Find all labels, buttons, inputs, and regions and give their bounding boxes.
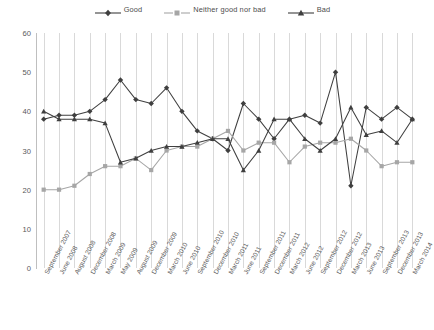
square-marker-icon xyxy=(164,4,190,14)
triangle-marker-icon xyxy=(256,148,261,153)
legend-item-neither[interactable]: Neither good nor bad xyxy=(164,4,265,14)
y-tick-label: 20 xyxy=(0,185,31,194)
square-marker-icon xyxy=(57,188,61,192)
diamond-marker-icon xyxy=(348,183,353,188)
series-bad xyxy=(41,105,415,172)
triangle-marker-icon xyxy=(288,4,314,14)
square-marker-icon xyxy=(410,160,414,164)
y-tick-label: 60 xyxy=(0,29,31,38)
triangle-marker-icon xyxy=(333,136,338,141)
square-marker-icon xyxy=(349,137,353,141)
diamond-marker-icon xyxy=(333,69,338,74)
square-marker-icon xyxy=(333,141,337,145)
triangle-marker-icon xyxy=(379,128,384,133)
diamond-marker-icon xyxy=(95,4,121,14)
square-marker-icon xyxy=(241,148,245,152)
square-marker-icon xyxy=(380,164,384,168)
square-marker-icon xyxy=(103,164,107,168)
legend-label-good: Good xyxy=(124,5,143,14)
chart-legend: Good Neither good nor bad Bad xyxy=(0,4,425,14)
square-marker-icon xyxy=(364,148,368,152)
diamond-marker-icon xyxy=(41,116,46,121)
square-marker-icon xyxy=(118,164,122,168)
y-tick-label: 10 xyxy=(0,224,31,233)
square-marker-icon xyxy=(88,172,92,176)
square-marker-icon xyxy=(395,160,399,164)
y-tick-label: 30 xyxy=(0,146,31,155)
y-tick-label: 0 xyxy=(0,264,31,273)
square-marker-icon xyxy=(272,141,276,145)
diamond-marker-icon xyxy=(317,120,322,125)
square-marker-icon xyxy=(303,144,307,148)
y-tick-label: 40 xyxy=(0,107,31,116)
square-marker-icon xyxy=(149,168,153,172)
legend-item-bad[interactable]: Bad xyxy=(288,4,331,14)
triangle-marker-icon xyxy=(41,109,46,114)
square-marker-icon xyxy=(226,129,230,133)
legend-label-bad: Bad xyxy=(317,5,331,14)
square-marker-icon xyxy=(164,148,168,152)
square-marker-icon xyxy=(257,141,261,145)
legend-item-good[interactable]: Good xyxy=(95,4,143,14)
square-marker-icon xyxy=(287,160,291,164)
square-marker-icon xyxy=(318,141,322,145)
legend-label-neither: Neither good nor bad xyxy=(193,5,265,14)
y-tick-label: 50 xyxy=(0,68,31,77)
diamond-marker-icon xyxy=(302,113,307,118)
square-marker-icon xyxy=(42,188,46,192)
triangle-marker-icon xyxy=(348,105,353,110)
square-marker-icon xyxy=(195,144,199,148)
square-marker-icon xyxy=(72,184,76,188)
